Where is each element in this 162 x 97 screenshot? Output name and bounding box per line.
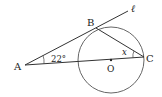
geometry-figure: A B C O ℓ 22° x [0, 0, 162, 97]
label-a: A [13, 61, 22, 72]
angle-a-value: 22° [51, 54, 66, 64]
label-line-l: ℓ [131, 3, 135, 14]
segment-bc [96, 28, 144, 57]
segment-ac [25, 57, 144, 65]
angle-arc-c [133, 51, 134, 58]
angle-arc-a [43, 56, 44, 64]
center-dot-o [110, 59, 112, 61]
label-b: B [87, 17, 94, 28]
label-c: C [146, 53, 154, 64]
label-o: O [107, 64, 114, 74]
angle-c-variable: x [122, 47, 127, 57]
